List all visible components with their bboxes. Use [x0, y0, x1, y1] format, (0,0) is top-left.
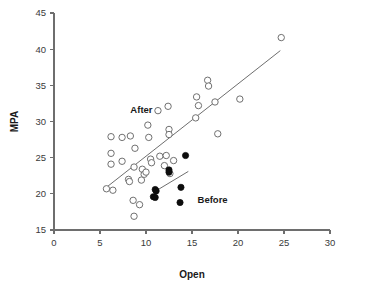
- x-tick-label: 30: [325, 237, 336, 248]
- x-tick-label: 15: [187, 237, 198, 248]
- y-tick-label: 20: [35, 188, 46, 199]
- data-point-after: [126, 178, 132, 184]
- axes: 15202530354045051015202530: [35, 7, 335, 248]
- y-axis-title: MPA: [9, 111, 20, 132]
- series-annotation-before: Before: [198, 194, 228, 205]
- data-point-after: [127, 133, 133, 139]
- x-tick-label: 25: [279, 237, 290, 248]
- data-point-after: [148, 160, 154, 166]
- data-point-after: [108, 161, 114, 167]
- data-point-after: [130, 197, 136, 203]
- data-point-after: [215, 131, 221, 137]
- x-axis-title: Open: [179, 269, 205, 280]
- data-point-before: [182, 152, 188, 158]
- data-point-after: [193, 94, 199, 100]
- y-tick-label: 40: [35, 44, 46, 55]
- data-point-after: [136, 201, 142, 207]
- data-point-after: [157, 153, 163, 159]
- data-point-after: [205, 83, 211, 89]
- series-annotation-after: After: [130, 104, 152, 115]
- scatter-chart: 15202530354045051015202530 AfterBeforeOp…: [0, 0, 369, 287]
- data-point-after: [119, 134, 125, 140]
- y-tick-label: 45: [35, 7, 46, 18]
- data-point-after: [146, 134, 152, 140]
- x-tick-label: 5: [97, 237, 102, 248]
- data-point-after: [103, 186, 109, 192]
- x-tick-label: 0: [51, 237, 56, 248]
- plot-area: 15202530354045051015202530 AfterBeforeOp…: [0, 0, 369, 287]
- data-point-after: [212, 99, 218, 105]
- data-point-before: [166, 169, 172, 175]
- y-tick-label: 30: [35, 116, 46, 127]
- data-point-after: [145, 122, 151, 128]
- data-point-before: [153, 188, 159, 194]
- data-point-after: [170, 157, 176, 163]
- data-point-after: [119, 158, 125, 164]
- data-point-after: [132, 145, 138, 151]
- x-tick-label: 20: [233, 237, 244, 248]
- data-point-after: [108, 133, 114, 139]
- data-point-after: [165, 103, 171, 109]
- y-tick-label: 35: [35, 80, 46, 91]
- data-point-before: [178, 184, 184, 190]
- data-point-after: [110, 187, 116, 193]
- x-tick-label: 10: [141, 237, 152, 248]
- data-point-after: [143, 169, 149, 175]
- data-point-after: [237, 96, 243, 102]
- data-points: [103, 34, 284, 219]
- y-tick-label: 15: [35, 224, 46, 235]
- data-point-after: [131, 164, 137, 170]
- data-point-after: [278, 34, 284, 40]
- data-point-after: [155, 107, 161, 113]
- data-point-before: [177, 199, 183, 205]
- data-point-after: [108, 150, 114, 156]
- data-point-after: [163, 152, 169, 158]
- data-point-after: [131, 213, 137, 219]
- data-point-before: [152, 194, 158, 200]
- data-point-after: [192, 115, 198, 121]
- y-tick-label: 25: [35, 152, 46, 163]
- data-point-after: [166, 131, 172, 137]
- data-point-after: [195, 102, 201, 108]
